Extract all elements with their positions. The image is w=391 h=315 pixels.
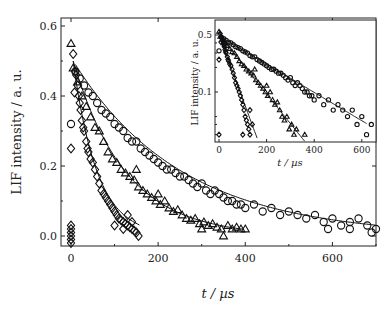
y-tick-label: 0.6 — [40, 20, 58, 33]
inset-x-axis-label: t / µs — [277, 157, 302, 168]
inset-x-tick-label: 200 — [258, 145, 275, 155]
inset-x-tick-label: 600 — [353, 145, 370, 155]
y-tick-label: 0.2 — [40, 160, 58, 173]
x-tick-label: 200 — [148, 252, 169, 265]
x-tick-label: 600 — [322, 252, 343, 265]
inset-x-tick-label: 0 — [216, 145, 222, 155]
inset-x-tick-label: 400 — [306, 145, 323, 155]
inset-y-axis-label: LIF intensity / a. u. — [190, 38, 200, 125]
x-tick-label: 400 — [235, 252, 256, 265]
y-axis-label: LIF intensity / a. u. — [9, 69, 24, 194]
inset-plot-area: 02004006000.50.1 — [198, 20, 376, 155]
y-tick-label: 0.4 — [40, 90, 58, 103]
x-axis-label: t / µs — [202, 286, 235, 301]
inset-y-tick-label: 0.5 — [198, 30, 213, 40]
lif-decay-chart: 02004006000.00.20.40.6 02004006000.50.1 … — [0, 0, 391, 315]
x-tick-label: 0 — [68, 252, 75, 265]
y-tick-label: 0.0 — [40, 230, 58, 243]
